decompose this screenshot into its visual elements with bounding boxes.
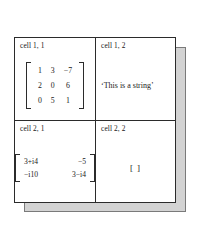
matrix-cell: 6 <box>59 78 76 93</box>
matrix-cell: 3+i4 <box>22 155 55 168</box>
cell-1-2-label: cell 1, 2 <box>101 41 171 50</box>
matrix-cell: −5 <box>55 155 88 168</box>
matrix-cell: 3 <box>46 63 59 78</box>
cell-1-1-content: 1 3 −7 2 0 6 0 5 1 <box>15 51 95 120</box>
cell-1-2: cell 1, 2 ‘This is a string’ <box>95 38 175 120</box>
matrix-cell: 1 <box>59 93 76 108</box>
matrix-cell: 5 <box>46 93 59 108</box>
empty-array-value: [ ] <box>130 163 141 173</box>
matrix-row: 0 5 1 <box>33 93 76 108</box>
matrix-3x3-grid: 1 3 −7 2 0 6 0 5 1 <box>33 63 76 108</box>
matrix-2x2-grid: 3+i4 −5 −i10 3−i4 <box>22 155 88 181</box>
matrix-row: −i10 3−i4 <box>22 168 88 181</box>
matrix-cell: 2 <box>33 78 46 93</box>
matrix-cell: 0 <box>46 78 59 93</box>
cell-array-figure: cell 1, 1 1 3 −7 2 0 6 <box>0 0 208 243</box>
cell-1-1: cell 1, 1 1 3 −7 2 0 6 <box>15 38 95 120</box>
cell-1-2-content: ‘This is a string’ <box>96 51 175 120</box>
matrix-row: 1 3 −7 <box>33 63 76 78</box>
matrix-cell: 1 <box>33 63 46 78</box>
matrix-cell: −7 <box>59 63 76 78</box>
matrix-cell: 0 <box>33 93 46 108</box>
matrix-cell: −i10 <box>22 168 55 181</box>
matrix-cell: 3−i4 <box>55 168 88 181</box>
matrix-row: 2 0 6 <box>33 78 76 93</box>
string-value: ‘This is a string’ <box>101 81 154 91</box>
matrix-2x2-complex: 3+i4 −5 −i10 3−i4 <box>15 154 95 182</box>
cell-2-1: cell 2, 1 3+i4 −5 −i10 3−i4 <box>15 120 95 202</box>
cell-2-2-content: [ ] <box>96 134 175 202</box>
cell-2-1-content: 3+i4 −5 −i10 3−i4 <box>15 134 95 202</box>
cell-1-1-label: cell 1, 1 <box>20 41 91 50</box>
cell-array-table: cell 1, 1 1 3 −7 2 0 6 <box>14 37 176 203</box>
cell-2-2: cell 2, 2 [ ] <box>95 120 175 202</box>
cell-2-1-label: cell 2, 1 <box>20 124 91 133</box>
cell-2-2-label: cell 2, 2 <box>101 124 171 133</box>
matrix-3x3: 1 3 −7 2 0 6 0 5 1 <box>26 62 83 109</box>
matrix-row: 3+i4 −5 <box>22 155 88 168</box>
